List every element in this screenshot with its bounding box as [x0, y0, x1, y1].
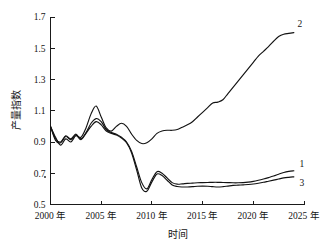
y-tick-label-1.5: 1.5	[34, 44, 46, 54]
chart-container: 0.50.70.91.11.31.51.7 2000 年2005 年2010 年…	[0, 0, 332, 252]
y-tick-label-1.3: 1.3	[34, 75, 46, 85]
y-tick-label-0.7: 0.7	[34, 169, 46, 179]
series-lines	[51, 33, 294, 192]
y-tick-label-1.1: 1.1	[34, 106, 46, 116]
series-line-2	[51, 33, 294, 146]
x-axis-title: 时间	[168, 228, 188, 240]
x-tick-label-2010: 2010 年	[136, 210, 167, 221]
x-tick-label-2025: 2025 年	[288, 210, 319, 221]
y-axis-title: 产量指数	[10, 90, 22, 130]
series-line-1	[51, 119, 294, 189]
x-tick-label-2015: 2015 年	[187, 210, 218, 221]
series-end-labels: 123	[297, 19, 304, 188]
y-tick-label-0.9: 0.9	[34, 137, 46, 147]
minor-axis-dot	[44, 176, 46, 178]
y-tick-label-0.5: 0.5	[34, 200, 46, 210]
series-label-1: 1	[299, 159, 304, 169]
production-index-line-chart: 0.50.70.91.11.31.51.7 2000 年2005 年2010 年…	[0, 0, 332, 252]
x-tick-label-2020: 2020 年	[238, 210, 269, 221]
y-axis-ticks	[51, 17, 55, 205]
x-axis-ticks	[51, 201, 305, 205]
y-axis-tick-labels: 0.50.70.91.11.31.51.7	[34, 12, 46, 210]
series-label-3: 3	[299, 178, 304, 188]
y-tick-label-1.7: 1.7	[34, 12, 46, 22]
series-label-2: 2	[297, 19, 302, 29]
x-tick-label-2005: 2005 年	[86, 210, 117, 221]
series-line-3	[51, 122, 294, 192]
x-axis-tick-labels: 2000 年2005 年2010 年2015 年2020 年2025 年	[35, 210, 320, 221]
x-tick-label-2000: 2000 年	[35, 210, 66, 221]
